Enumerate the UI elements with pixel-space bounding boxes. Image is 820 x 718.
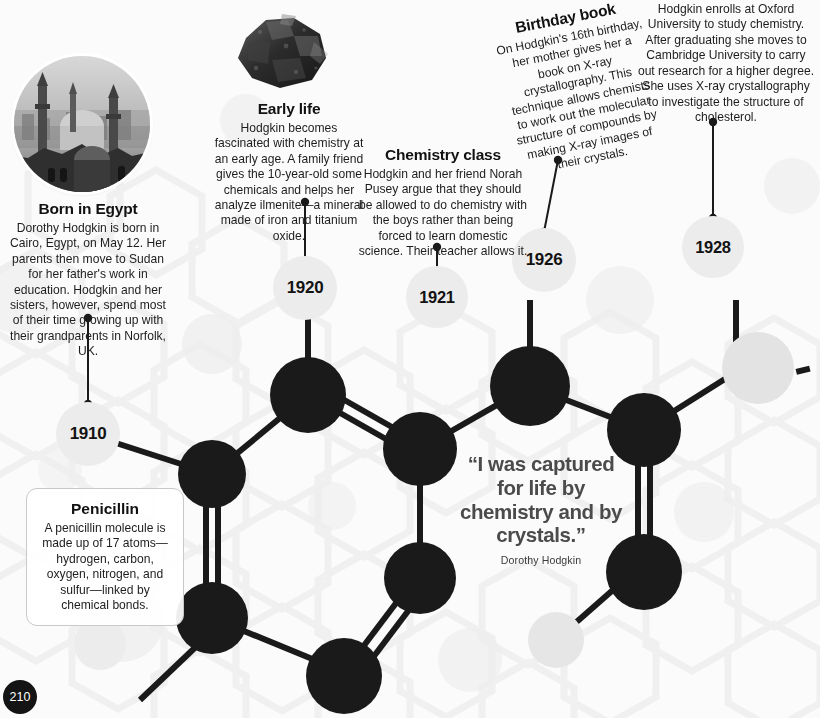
callout-heading: Penicillin bbox=[40, 500, 170, 518]
year-label: 1921 bbox=[419, 288, 455, 307]
cairo-skyline-photo bbox=[14, 56, 150, 192]
year-label: 1926 bbox=[526, 250, 563, 270]
atom-node-3 bbox=[383, 412, 457, 486]
text-block-early-life: Early life Hodgkin becomes fascinated wi… bbox=[213, 100, 365, 244]
atom-node-5 bbox=[306, 638, 382, 714]
callout-penicillin: Penicillin A penicillin molecule is made… bbox=[26, 488, 184, 626]
atom-node-6 bbox=[384, 542, 456, 614]
page-number: 210 bbox=[10, 690, 31, 704]
year-marker-1928[interactable]: 1928 bbox=[682, 216, 744, 278]
year-marker-1910[interactable]: 1910 bbox=[56, 402, 120, 466]
dashed-bond-offpage bbox=[772, 366, 820, 378]
quote-text: “I was captured for life by chemistry an… bbox=[456, 452, 626, 547]
year-marker-1921[interactable]: 1921 bbox=[406, 266, 468, 328]
infographic-page: 1910 1920 1921 1926 1928 Born in Egypt D… bbox=[0, 0, 820, 718]
text-block-oxford-university: Hodgkin enrolls at Oxford University to … bbox=[637, 2, 815, 126]
block-body: Hodgkin and her friend Norah Pusey argue… bbox=[357, 167, 529, 260]
text-block-chemistry-class: Chemistry class Hodgkin and her friend N… bbox=[357, 146, 529, 259]
atom-pale-right bbox=[722, 332, 794, 404]
text-block-born-in-egypt: Born in Egypt Dorothy Hodgkin is born in… bbox=[4, 200, 172, 360]
callout-body: A penicillin molecule is made up of 17 a… bbox=[40, 521, 170, 614]
year-label: 1920 bbox=[287, 278, 324, 298]
block-body: Hodgkin enrolls at Oxford University to … bbox=[637, 2, 815, 126]
atom-pale-lower bbox=[528, 612, 584, 668]
year-label: 1910 bbox=[70, 424, 107, 444]
atom-node-1 bbox=[178, 440, 246, 508]
block-body: Dorothy Hodgkin is born in Cairo, Egypt,… bbox=[4, 221, 172, 360]
atom-node-7 bbox=[490, 346, 570, 426]
block-heading: Chemistry class bbox=[357, 146, 529, 164]
atom-node-2 bbox=[270, 357, 346, 433]
atom-node-4 bbox=[176, 582, 248, 654]
block-heading: Early life bbox=[213, 100, 365, 118]
block-heading: Born in Egypt bbox=[4, 200, 172, 218]
quote-attribution: Dorothy Hodgkin bbox=[456, 554, 626, 566]
pull-quote: “I was captured for life by chemistry an… bbox=[456, 452, 626, 566]
year-marker-1920[interactable]: 1920 bbox=[273, 256, 337, 320]
page-number-badge: 210 bbox=[3, 680, 37, 714]
ilmenite-mineral-photo bbox=[228, 12, 334, 94]
block-body: Hodgkin becomes fascinated with chemistr… bbox=[213, 121, 365, 245]
year-label: 1928 bbox=[695, 238, 731, 257]
